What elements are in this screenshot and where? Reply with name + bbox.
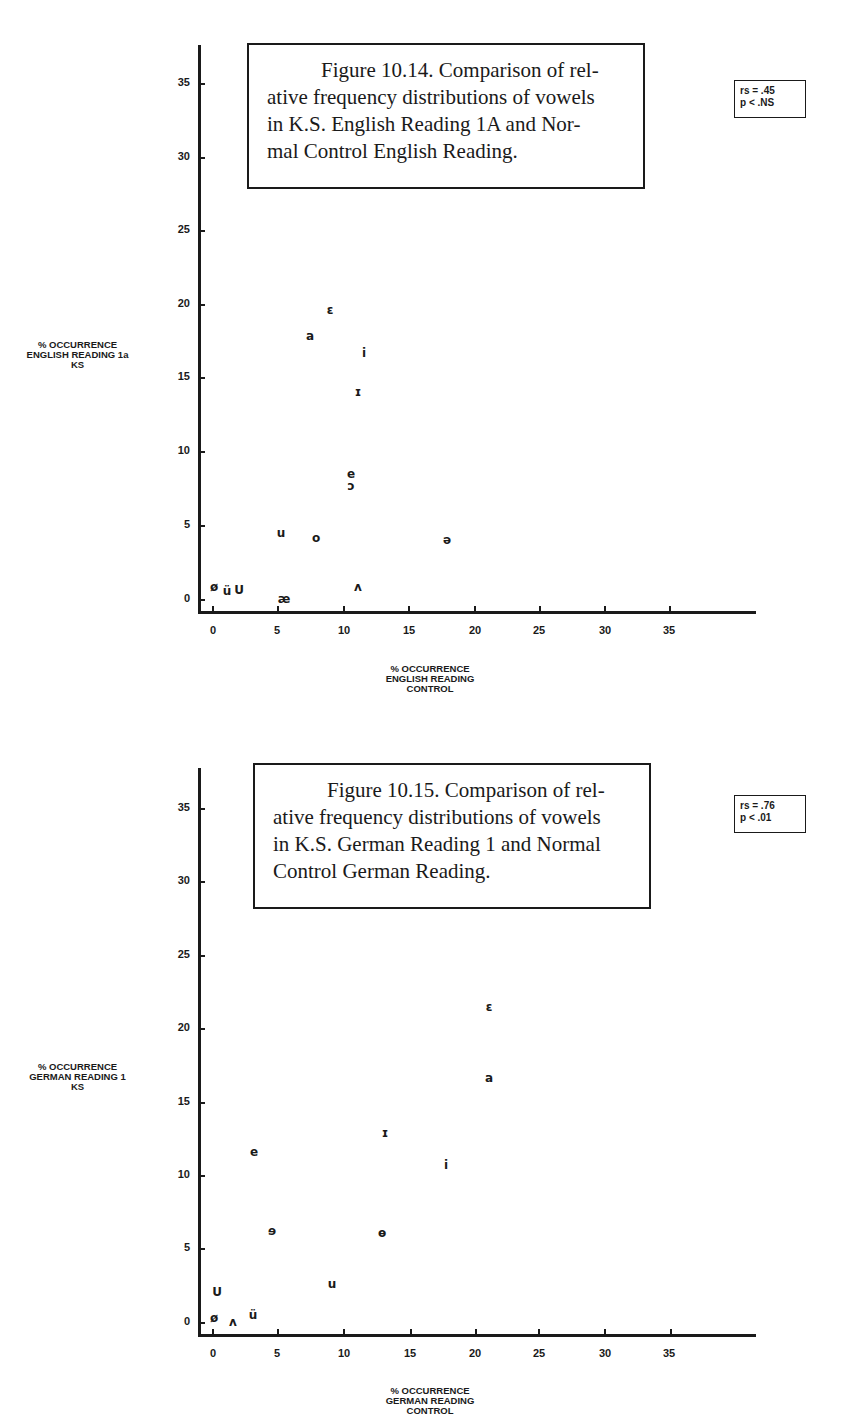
x-tick xyxy=(474,606,476,611)
rs-value: rs = .76 xyxy=(740,800,800,812)
x-tick xyxy=(277,606,279,611)
caption-line: Control German Reading. xyxy=(273,858,635,885)
figure-10-14: 0 5 10 15 20 25 30 35 0 5 10 15 20 25 30… xyxy=(0,0,845,710)
y-axis-title: % OCCURRENCE ENGLISH READING 1a KS xyxy=(0,340,155,370)
correlation-stats: rs = .45 p < .NS xyxy=(734,80,806,118)
data-point: ø xyxy=(210,1312,218,1324)
x-tick xyxy=(539,606,541,611)
y-tick-label: 5 xyxy=(160,1241,190,1253)
data-point: ɪ xyxy=(382,1127,389,1139)
data-point: o xyxy=(312,532,320,544)
y-axis-line xyxy=(198,768,201,1336)
y-tick-label: 10 xyxy=(160,1168,190,1180)
y-tick xyxy=(200,525,205,527)
p-value: p < .NS xyxy=(740,97,800,109)
x-axis-title: % OCCURRENCE GERMAN READING CONTROL xyxy=(360,1386,500,1416)
x-tick-label: 20 xyxy=(460,624,490,636)
y-tick xyxy=(200,157,205,159)
data-point: ü xyxy=(223,585,232,597)
x-tick-label: 0 xyxy=(198,1347,228,1359)
y-tick-label: 25 xyxy=(160,223,190,235)
data-point: ɛ xyxy=(486,1001,493,1013)
caption-line: in K.S. German Reading 1 and Normal xyxy=(273,831,635,858)
figure-caption: Figure 10.14. Comparison of rel- ative f… xyxy=(247,43,645,189)
data-point: u xyxy=(277,527,286,539)
data-point: U xyxy=(234,584,244,596)
x-axis-line xyxy=(198,1334,756,1337)
data-point: ɘ xyxy=(268,1225,276,1237)
data-point: ɔ xyxy=(347,480,354,492)
x-tick-label: 10 xyxy=(329,624,359,636)
y-axis-title-line: KS xyxy=(0,1082,155,1092)
y-tick-label: 25 xyxy=(160,948,190,960)
rs-value: rs = .45 xyxy=(740,85,800,97)
x-tick xyxy=(212,606,214,611)
y-tick-label: 35 xyxy=(160,801,190,813)
data-point: ɪ xyxy=(355,386,362,398)
y-axis-title-line: GERMAN READING 1 xyxy=(0,1072,155,1082)
x-tick-label: 5 xyxy=(262,1347,292,1359)
caption-line: mal Control English Reading. xyxy=(267,138,629,165)
y-tick xyxy=(200,377,205,379)
data-point: æ xyxy=(278,593,291,605)
x-tick-label: 30 xyxy=(590,1347,620,1359)
x-tick xyxy=(277,1329,279,1334)
data-point: i xyxy=(444,1159,448,1171)
y-tick xyxy=(200,83,205,85)
caption-line: in K.S. English Reading 1A and Nor- xyxy=(267,111,629,138)
y-tick xyxy=(200,1028,205,1030)
caption-line: Figure 10.14. Comparison of rel- xyxy=(267,57,629,84)
x-tick xyxy=(670,1329,672,1334)
y-tick-label: 30 xyxy=(160,150,190,162)
y-tick xyxy=(200,1248,205,1250)
data-point: ʌ xyxy=(229,1316,237,1328)
x-axis-line xyxy=(198,611,756,614)
correlation-stats: rs = .76 p < .01 xyxy=(734,795,806,833)
y-tick xyxy=(200,808,205,810)
y-tick-label: 30 xyxy=(160,874,190,886)
x-tick xyxy=(343,606,345,611)
x-axis-title-line: GERMAN READING xyxy=(360,1396,500,1406)
y-tick xyxy=(200,599,205,601)
y-tick-label: 0 xyxy=(160,592,190,604)
data-point: i xyxy=(362,347,366,359)
x-axis-title-line: CONTROL xyxy=(360,1406,500,1416)
y-tick xyxy=(200,1175,205,1177)
x-tick xyxy=(475,1329,477,1334)
y-tick-label: 0 xyxy=(160,1315,190,1327)
y-tick xyxy=(200,955,205,957)
x-axis-title-line: CONTROL xyxy=(360,684,500,694)
data-point: a xyxy=(485,1072,493,1084)
x-tick-label: 25 xyxy=(524,1347,554,1359)
x-tick-label: 30 xyxy=(590,624,620,636)
x-tick xyxy=(212,1329,214,1334)
x-tick xyxy=(410,1329,412,1334)
p-value: p < .01 xyxy=(740,812,800,824)
x-tick-label: 20 xyxy=(460,1347,490,1359)
caption-line: ative frequency distributions of vowels xyxy=(267,84,629,111)
y-axis-title-line: KS xyxy=(0,360,155,370)
x-axis-title-line: % OCCURRENCE xyxy=(360,1386,500,1396)
x-axis-title: % OCCURRENCE ENGLISH READING CONTROL xyxy=(360,664,500,694)
x-tick xyxy=(669,606,671,611)
x-tick-label: 15 xyxy=(395,1347,425,1359)
x-tick-label: 15 xyxy=(394,624,424,636)
data-point: ɛ xyxy=(327,304,334,316)
x-tick-label: 25 xyxy=(524,624,554,636)
x-tick xyxy=(604,1329,606,1334)
data-point: ə xyxy=(443,534,451,546)
y-axis-title: % OCCURRENCE GERMAN READING 1 KS xyxy=(0,1062,155,1092)
x-tick xyxy=(604,606,606,611)
data-point: u xyxy=(328,1278,337,1290)
data-point: ø xyxy=(210,581,218,593)
x-tick-label: 35 xyxy=(654,624,684,636)
figure-caption: Figure 10.15. Comparison of rel- ative f… xyxy=(253,763,651,909)
x-tick xyxy=(343,1329,345,1334)
caption-line: Figure 10.15. Comparison of rel- xyxy=(273,777,635,804)
y-tick-label: 5 xyxy=(160,518,190,530)
y-tick-label: 20 xyxy=(160,1021,190,1033)
y-tick-label: 15 xyxy=(160,370,190,382)
data-point: ʌ xyxy=(354,581,362,593)
caption-line: ative frequency distributions of vowels xyxy=(273,804,635,831)
x-tick-label: 5 xyxy=(262,624,292,636)
